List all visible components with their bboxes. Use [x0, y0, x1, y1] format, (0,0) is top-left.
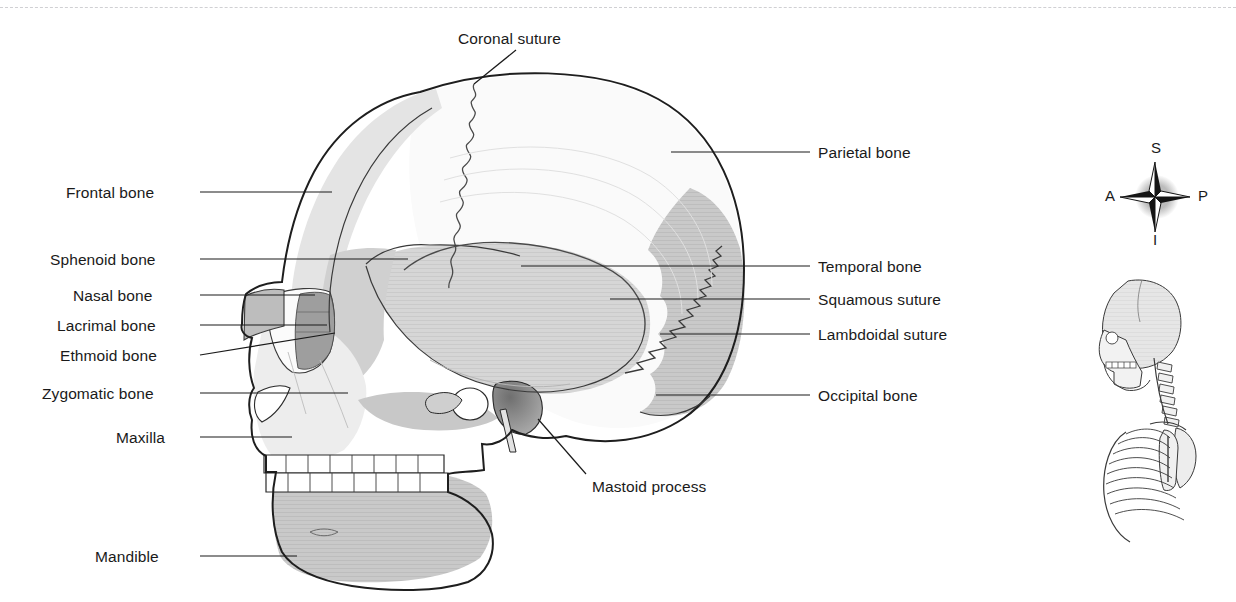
label-nasal-bone: Nasal bone — [73, 288, 152, 304]
label-mandible: Mandible — [95, 549, 159, 565]
thumb-cervical-spine — [1157, 362, 1179, 427]
thumb-teeth — [1106, 362, 1136, 368]
label-parietal-bone: Parietal bone — [818, 145, 911, 161]
lower-teeth-row — [266, 473, 448, 492]
label-mastoid-process: Mastoid process — [592, 479, 706, 495]
leader-mastoid-process — [538, 419, 586, 474]
mastoid-process-region — [493, 381, 543, 434]
label-sphenoid-bone: Sphenoid bone — [50, 252, 156, 268]
label-squamous-suture: Squamous suture — [818, 292, 941, 308]
label-frontal-bone: Frontal bone — [66, 185, 154, 201]
label-temporal-bone: Temporal bone — [818, 259, 922, 275]
label-maxilla: Maxilla — [116, 430, 165, 446]
skull-lateral-view — [241, 73, 744, 590]
label-coronal-suture: Coronal suture — [458, 31, 561, 47]
label-occipital-bone: Occipital bone — [818, 388, 918, 404]
skull-anatomy-figure: Frontal bone Sphenoid bone Nasal bone La… — [0, 0, 1236, 602]
compass-label-anterior: A — [1105, 188, 1115, 203]
compass-label-superior: S — [1151, 140, 1161, 155]
skeleton-orientation-thumbnail — [1099, 280, 1196, 542]
label-zygomatic-bone: Zygomatic bone — [42, 386, 154, 402]
upper-teeth-row — [264, 455, 444, 473]
skull-illustration — [0, 0, 1236, 602]
label-lambdoidal-suture: Lambdoidal suture — [818, 327, 947, 343]
thumb-orbit — [1106, 332, 1118, 344]
orientation-rose — [1120, 162, 1190, 232]
label-ethmoid-bone: Ethmoid bone — [60, 348, 157, 364]
compass-label-posterior: P — [1198, 188, 1208, 203]
thumb-ribcage-outline — [1104, 432, 1130, 542]
label-lacrimal-bone: Lacrimal bone — [57, 318, 156, 334]
compass-label-inferior: I — [1153, 232, 1157, 247]
